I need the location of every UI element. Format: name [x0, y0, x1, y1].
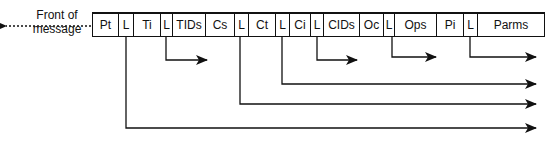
arrow-ti-length	[166, 37, 207, 60]
arrow-ops-length	[392, 37, 436, 57]
arrow-ct-length	[240, 37, 536, 104]
arrow-ti-outer-length	[126, 37, 536, 128]
arrow-parms-length	[470, 37, 536, 57]
arrow-cids-length	[317, 37, 357, 60]
length-pointer-arrows	[0, 0, 555, 145]
